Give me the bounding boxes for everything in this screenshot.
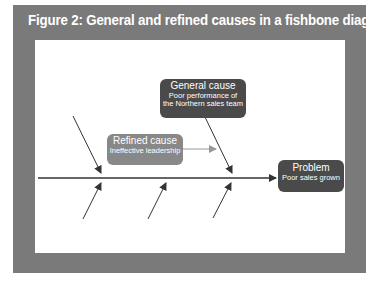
problem-heading: Problem	[278, 162, 344, 174]
general-cause-line2: the Northern sales team	[160, 100, 246, 109]
lower-bone-2	[148, 183, 166, 219]
refined-cause-box: Refined cause Ineffective leadership	[107, 134, 183, 165]
upper-bone-general	[205, 117, 232, 173]
general-cause-box: General cause Poor performance of the No…	[160, 79, 246, 118]
fishbone-lines	[0, 0, 376, 289]
upper-bone-left	[73, 116, 101, 173]
general-cause-heading: General cause	[160, 80, 246, 92]
refined-cause-heading: Refined cause	[107, 135, 183, 147]
lower-bone-3	[213, 183, 231, 218]
refined-cause-line1: Ineffective leadership	[107, 147, 183, 156]
problem-line1: Poor sales grown	[278, 174, 344, 183]
problem-box: Problem Poor sales grown	[278, 160, 344, 192]
lower-bone-1	[83, 183, 101, 219]
